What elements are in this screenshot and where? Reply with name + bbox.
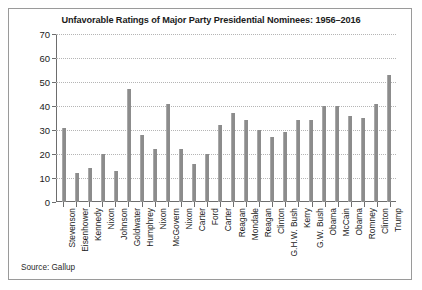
x-tick-mark <box>194 202 195 207</box>
bar <box>257 130 261 202</box>
x-label-slot: Trump <box>384 208 397 270</box>
x-tick-slot <box>332 202 345 207</box>
y-tick-label: 10 <box>39 173 50 184</box>
y-tick-label: 40 <box>39 101 50 112</box>
bar-slot <box>252 34 265 202</box>
y-tick-label: 20 <box>39 149 50 160</box>
x-label-slot: Ford <box>201 208 214 270</box>
x-tick-slot <box>319 202 332 207</box>
x-tick-slot <box>188 202 201 207</box>
x-label-slot: Reagan <box>227 208 240 270</box>
x-tick-slot <box>227 202 240 207</box>
chart-title: Unfavorable Ratings of Major Party Presi… <box>9 15 413 25</box>
x-tick-mark <box>259 202 260 207</box>
bar <box>322 106 326 202</box>
bar <box>309 120 313 202</box>
x-label-slot: Nixon <box>149 208 162 270</box>
x-tick-mark <box>325 202 326 207</box>
x-label-slot: Obama <box>319 208 332 270</box>
x-tick-mark <box>142 202 143 207</box>
y-tick-mark <box>52 178 56 179</box>
x-tick-slot <box>109 202 122 207</box>
x-axis-labels: StevensonEisenhowerKennedyNixonJohnsonGo… <box>57 208 397 270</box>
x-tick-mark <box>390 202 391 207</box>
x-tick-slot <box>279 202 292 207</box>
bar-slot <box>226 34 239 202</box>
x-tick-slot <box>266 202 279 207</box>
x-label-slot: Romney <box>358 208 371 270</box>
x-tick-mark <box>338 202 339 207</box>
bar-slot <box>239 34 252 202</box>
x-tick-mark <box>298 202 299 207</box>
y-tick-mark <box>52 202 56 203</box>
bar-slot <box>370 34 383 202</box>
x-label-slot: G.H.W. Bush <box>279 208 292 270</box>
bar-slot <box>344 34 357 202</box>
bar <box>231 113 235 202</box>
x-tick-mark <box>377 202 378 207</box>
x-tick-slot <box>240 202 253 207</box>
x-label-slot: Mondale <box>240 208 253 270</box>
x-tick-mark <box>220 202 221 207</box>
x-label-slot: Eisenhower <box>70 208 83 270</box>
x-label-slot: Johnson <box>109 208 122 270</box>
bar-slot <box>266 34 279 202</box>
x-tick-slot <box>149 202 162 207</box>
y-tick-mark <box>52 58 56 59</box>
bar-slot <box>279 34 292 202</box>
x-tick-mark <box>351 202 352 207</box>
x-label-slot: Stevenson <box>57 208 70 270</box>
bar-series <box>57 34 396 202</box>
bar <box>283 132 287 202</box>
x-tick-slot <box>96 202 109 207</box>
y-tick-label: 60 <box>39 53 50 64</box>
bar-slot <box>70 34 83 202</box>
bar <box>335 106 339 202</box>
x-tick-mark <box>312 202 313 207</box>
x-tick-mark <box>89 202 90 207</box>
x-tick-mark <box>364 202 365 207</box>
x-tick-slot <box>214 202 227 207</box>
bar-slot <box>83 34 96 202</box>
bar <box>296 120 300 202</box>
x-tick-mark <box>102 202 103 207</box>
bar-slot <box>135 34 148 202</box>
x-tick-slot <box>371 202 384 207</box>
x-axis-ticks <box>57 202 397 207</box>
bar <box>348 116 352 202</box>
x-tick-mark <box>128 202 129 207</box>
bar <box>62 128 66 202</box>
bar-slot <box>96 34 109 202</box>
bar-slot <box>213 34 226 202</box>
x-tick-slot <box>175 202 188 207</box>
x-label-slot: Clinton <box>371 208 384 270</box>
x-tick-slot <box>305 202 318 207</box>
bar <box>166 104 170 202</box>
x-label-slot: Nixon <box>96 208 109 270</box>
x-tick-mark <box>285 202 286 207</box>
bar-slot <box>200 34 213 202</box>
bar-slot <box>305 34 318 202</box>
x-tick-slot <box>345 202 358 207</box>
x-tick-mark <box>181 202 182 207</box>
y-axis-label: % Unfavorable <box>15 0 29 48</box>
bar <box>127 89 131 202</box>
x-tick-slot <box>253 202 266 207</box>
x-label-slot: Humphrey <box>135 208 148 270</box>
x-label-slot: Kennedy <box>83 208 96 270</box>
x-tick-slot <box>358 202 371 207</box>
x-tick-slot <box>135 202 148 207</box>
x-tick-slot <box>162 202 175 207</box>
bar <box>361 118 365 202</box>
bar <box>244 120 248 202</box>
x-tick-mark <box>115 202 116 207</box>
source-note: Source: Gallup <box>21 263 75 272</box>
chart-figure: Unfavorable Ratings of Major Party Presi… <box>8 8 412 280</box>
x-tick-slot <box>57 202 70 207</box>
x-label-slot: Carter <box>214 208 227 270</box>
x-tick-label: Trump <box>394 208 403 232</box>
x-label-slot: Reagan <box>253 208 266 270</box>
y-tick-label: 70 <box>39 29 50 40</box>
x-tick-mark <box>168 202 169 207</box>
bar <box>179 149 183 202</box>
